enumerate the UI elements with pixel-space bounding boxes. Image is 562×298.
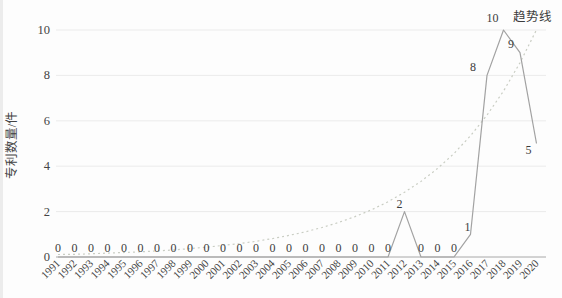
data-label: 2: [397, 197, 403, 211]
data-label: 0: [204, 241, 210, 255]
data-label: 0: [253, 241, 259, 255]
y-tick-label: 2: [44, 205, 50, 219]
y-tick-label: 8: [44, 68, 50, 82]
data-label: 0: [187, 241, 193, 255]
data-label: 0: [336, 241, 342, 255]
data-label: 0: [220, 241, 226, 255]
data-label: 0: [138, 241, 144, 255]
data-label: 0: [286, 241, 292, 255]
data-label: 10: [487, 11, 499, 25]
data-label: 0: [270, 241, 276, 255]
y-tick-label: 4: [44, 159, 51, 173]
data-label: 0: [105, 241, 111, 255]
data-label: 9: [508, 37, 514, 51]
trend-line-label: 趋势线: [513, 9, 552, 24]
data-label: 5: [526, 143, 532, 157]
data-label: 0: [171, 241, 177, 255]
data-label: 8: [470, 60, 476, 74]
patent-trend-figure: 0246810专利数量/件199119921993199419951996199…: [0, 0, 562, 298]
data-label: 0: [303, 241, 309, 255]
data-label: 0: [55, 241, 61, 255]
data-label: 1: [465, 220, 471, 234]
data-label: 0: [369, 241, 375, 255]
data-label: 0: [319, 241, 325, 255]
data-label: 0: [418, 241, 424, 255]
y-axis-title: 专利数量/件: [4, 111, 19, 179]
data-label: 0: [385, 241, 391, 255]
data-label: 0: [72, 241, 78, 255]
data-label: 0: [435, 241, 441, 255]
y-tick-label: 10: [38, 23, 51, 37]
data-label: 0: [154, 241, 160, 255]
patent-trend-chart: 0246810专利数量/件199119921993199419951996199…: [0, 0, 562, 298]
data-label: 0: [88, 241, 94, 255]
data-label: 0: [121, 241, 127, 255]
data-label: 0: [451, 241, 457, 255]
data-label: 0: [237, 241, 243, 255]
x-tick-label: 2020: [517, 257, 541, 281]
data-label: 0: [352, 241, 358, 255]
y-tick-label: 6: [44, 114, 50, 128]
